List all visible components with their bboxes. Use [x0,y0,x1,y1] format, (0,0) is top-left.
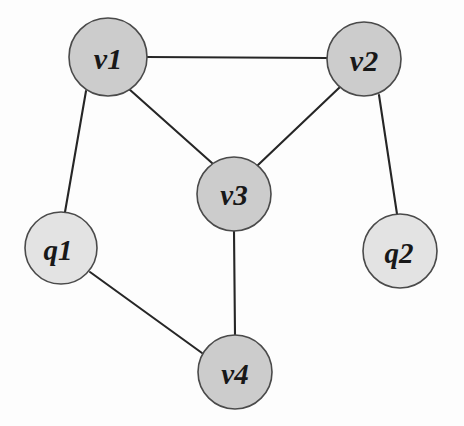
graph-node-label-v4: v4 [221,358,248,390]
graph-node-label-v2: v2 [350,44,378,77]
graph-node-label-v3: v3 [220,179,247,211]
graph-svg: v1v2v3v4q1q2 [0,0,464,426]
graph-node-q2[interactable]: q2 [363,214,437,288]
graph-node-label-q1: q1 [44,234,73,266]
graph-node-v1[interactable]: v1 [69,18,147,96]
graph-edge-v3-v4[interactable] [234,231,235,335]
graph-node-v3[interactable]: v3 [197,157,271,231]
graph-nodes-layer: v1v2v3v4q1q2 [25,18,437,409]
graph-diagram-canvas: v1v2v3v4q1q2 [0,0,464,426]
graph-edge-v1-v3[interactable] [129,89,212,163]
graph-node-v4[interactable]: v4 [198,335,272,409]
graph-node-label-q2: q2 [385,237,414,269]
graph-node-label-v1: v1 [94,42,122,75]
graph-node-v2[interactable]: v2 [327,22,401,96]
graph-edge-q1-v4[interactable] [90,272,202,353]
graph-edge-v2-q2[interactable] [379,95,397,214]
graph-edge-v2-v3[interactable] [258,87,340,165]
graph-edge-v1-v2[interactable] [146,57,327,58]
graph-edge-v1-q1[interactable] [65,91,86,212]
graph-node-q1[interactable]: q1 [25,212,97,284]
